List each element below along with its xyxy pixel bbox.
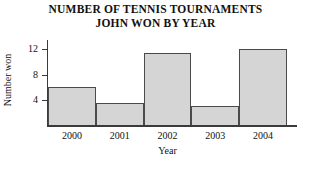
bar-cell [96,40,144,125]
x-axis-line [47,125,297,127]
x-axis-tick-label: 2002 [144,130,192,142]
y-axis-tick-label: 12 [16,44,38,54]
bars-container [48,40,287,125]
x-axis-title: Year [48,145,287,157]
y-axis-tick-label: 8 [16,70,38,80]
bar-cell [48,40,96,125]
y-axis-title: Number won [2,44,14,116]
y-axis-tick-label: 4 [16,95,38,105]
bar [239,49,287,125]
bar-chart: NUMBER OF TENNIS TOURNAMENTS JOHN WON BY… [0,0,311,169]
bar [96,103,144,125]
bar-cell [191,40,239,125]
chart-title-line-1: NUMBER OF TENNIS TOURNAMENTS [0,2,311,16]
bar [191,106,239,125]
bar [144,53,192,125]
bar-cell [239,40,287,125]
bar [48,87,96,125]
chart-title-line-2: JOHN WON BY YEAR [0,16,311,30]
x-axis-tick-label: 2004 [239,130,287,142]
chart-title: NUMBER OF TENNIS TOURNAMENTS JOHN WON BY… [0,2,311,30]
x-axis-tick-labels: 20002001200220032004 [48,130,287,142]
x-axis-tick-label: 2001 [96,130,144,142]
bar-cell [144,40,192,125]
x-axis-tick-label: 2000 [48,130,96,142]
x-axis-tick-label: 2003 [191,130,239,142]
